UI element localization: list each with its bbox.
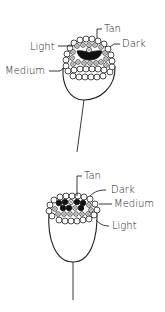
top-flower: Tan Light Dark Medium xyxy=(5,23,146,152)
top-stem xyxy=(77,100,84,152)
top-label-medium: Medium xyxy=(5,65,64,76)
svg-text:Medium: Medium xyxy=(5,65,45,76)
svg-text:Light: Light xyxy=(30,41,55,52)
flower-diagrams: Tan Light Dark Medium xyxy=(0,0,165,312)
bottom-label-light: Light xyxy=(96,220,137,231)
svg-text:Tan: Tan xyxy=(104,23,121,34)
svg-text:Tan: Tan xyxy=(84,170,101,181)
bottom-label-dark: Dark xyxy=(90,184,135,196)
svg-text:Dark: Dark xyxy=(122,38,146,49)
svg-text:Light: Light xyxy=(112,220,137,231)
bottom-label-tan: Tan xyxy=(77,170,101,196)
top-label-tan: Tan xyxy=(97,23,121,38)
bottom-label-medium: Medium xyxy=(99,198,154,209)
bottom-flower: Tan Dark Medium Light xyxy=(46,170,154,300)
top-label-light: Light xyxy=(30,41,72,52)
svg-text:Dark: Dark xyxy=(111,184,135,195)
svg-text:Medium: Medium xyxy=(114,198,154,209)
top-label-dark: Dark xyxy=(110,38,146,49)
